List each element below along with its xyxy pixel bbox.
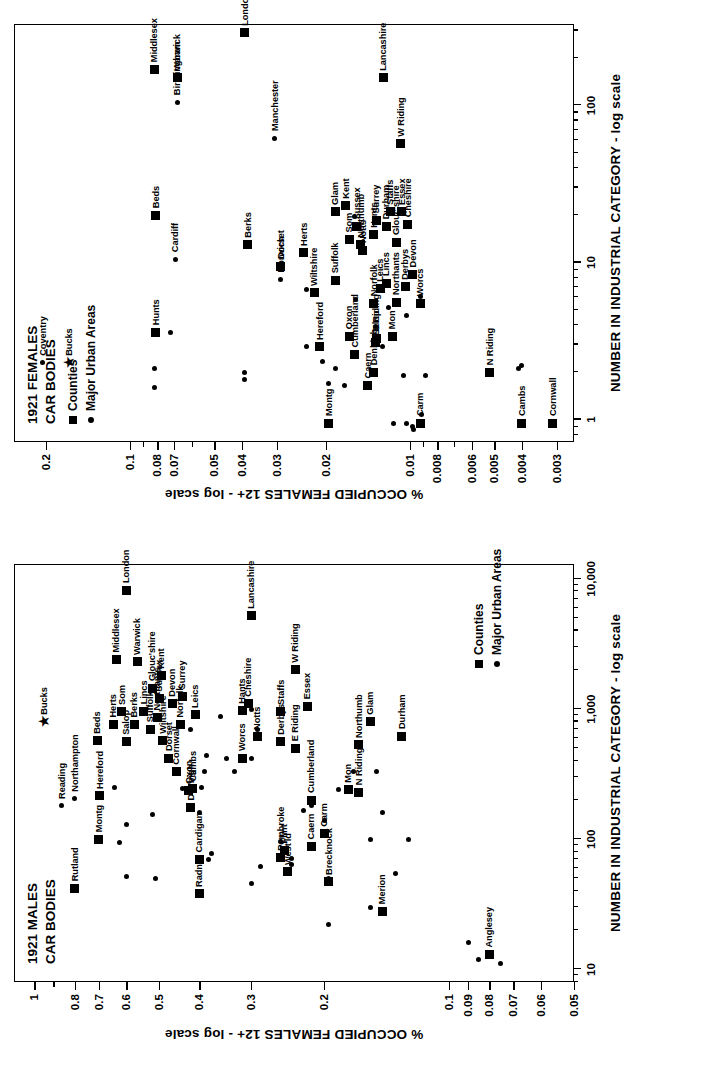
data-point-square	[112, 655, 121, 664]
data-point-label: Beds	[92, 711, 102, 733]
data-point-square	[153, 713, 162, 722]
data-point-label: Bucks	[39, 687, 49, 714]
data-point-label: Lincs	[381, 252, 391, 276]
axis-tick-x	[574, 167, 578, 168]
axis-tick-x	[574, 57, 578, 58]
data-point-dot	[175, 100, 180, 105]
data-point-label: Rutland	[70, 847, 80, 881]
data-point-dot	[168, 330, 173, 335]
data-point-square	[403, 220, 412, 229]
data-point-label: Staffs	[276, 680, 286, 705]
data-point-label: Cambs	[517, 386, 527, 417]
axis-tick-x	[574, 29, 578, 30]
data-point-dot	[418, 294, 423, 299]
data-point-square	[382, 279, 391, 288]
axis-tick-x	[574, 760, 578, 761]
data-point-label: Berks	[243, 212, 253, 237]
axis-tick-x	[574, 720, 578, 721]
data-point-dot	[476, 957, 481, 962]
data-point-square	[243, 240, 252, 249]
axis-tick-x	[574, 104, 581, 105]
legend-square-icon	[69, 416, 77, 424]
data-point-dot	[466, 940, 471, 945]
chart-females: 110100NUMBER IN INDUSTRIAL CATEGORY - lo…	[0, 0, 705, 540]
data-point-label: Cardiff	[170, 223, 180, 252]
axis-tick-x	[574, 214, 578, 215]
data-point-square	[291, 665, 300, 674]
data-point-label: Wiltshire	[309, 248, 319, 286]
axis-tick-x	[574, 261, 581, 262]
data-point-label: Glam	[330, 182, 340, 205]
data-point-square	[291, 744, 300, 753]
data-point-dot	[401, 373, 406, 378]
data-point-square	[150, 65, 159, 74]
y-tick-label: 0.8	[69, 994, 81, 1010]
data-point-label: Hants	[369, 203, 379, 228]
legend-label: Major Urban Areas	[488, 549, 506, 655]
data-point-square	[378, 907, 387, 916]
data-point-square	[195, 889, 204, 898]
data-point-square	[345, 235, 354, 244]
data-point-dot	[326, 381, 331, 386]
y-tick-label: 0.01	[404, 454, 416, 477]
y-tick-label: 0.07	[168, 454, 180, 477]
data-point-square	[369, 230, 378, 239]
data-point-label: London	[121, 550, 131, 583]
axis-tick-x	[574, 728, 578, 729]
data-point-square	[341, 201, 350, 210]
axis-tick-y-major	[251, 982, 252, 990]
data-point-dot	[419, 412, 424, 417]
axis-tick-x	[574, 139, 578, 140]
data-point-square	[95, 791, 104, 800]
legend-item: Major Urban Areas	[488, 549, 506, 668]
axis-tick-x	[574, 186, 578, 187]
axis-tick-x	[574, 890, 578, 891]
data-point-dot	[249, 881, 254, 886]
data-point-dot	[173, 257, 178, 262]
data-point-label: Som	[117, 685, 127, 705]
y-tick-label: 0.1	[124, 454, 136, 470]
data-point-dot	[117, 840, 122, 845]
data-point-label: N Riding	[485, 328, 495, 365]
data-point-square	[382, 222, 391, 231]
data-point-dot	[249, 756, 254, 761]
data-point-square	[548, 419, 557, 428]
axis-tick-y-major	[574, 982, 575, 990]
data-point-label: Kent	[156, 649, 166, 669]
axis-tick-y-major	[541, 982, 542, 990]
axis-tick-y-major	[157, 442, 158, 450]
data-point-label: Herts	[299, 223, 309, 246]
data-point-label: W Riding	[290, 623, 300, 662]
axis-tick-x	[574, 286, 578, 287]
axis-tick-x	[574, 309, 578, 310]
axis-tick-x	[574, 418, 581, 419]
data-point-label: Norfolk	[175, 686, 185, 718]
data-point-square	[130, 720, 139, 729]
axis-tick-x	[574, 426, 578, 427]
y-tick-label: 0.05	[208, 454, 220, 477]
legend-label: Major Urban Areas	[82, 305, 100, 411]
data-point-square	[363, 381, 372, 390]
data-point-square	[366, 717, 375, 726]
data-point-label: Notts	[358, 220, 368, 243]
x-tick-label: 10,000	[585, 561, 597, 597]
axis-tick-x	[574, 714, 578, 715]
data-point-square	[401, 282, 410, 291]
legend-dot-icon	[88, 417, 94, 423]
data-point-square	[253, 732, 262, 741]
data-point-label: Manchester	[270, 80, 280, 131]
data-point-label: Cornwall	[171, 726, 181, 764]
data-point-dot	[204, 753, 209, 758]
data-point-square	[191, 710, 200, 719]
y-tick-label: 0.006	[466, 454, 478, 483]
y-tick-label: 0.08	[483, 994, 495, 1017]
axis-tick-x	[574, 629, 578, 630]
axis-tick-y	[454, 442, 455, 447]
axis-tick-x	[574, 111, 578, 112]
axis-tick-y	[53, 982, 54, 987]
x-tick-label: 1	[585, 416, 597, 423]
axis-tick-x	[574, 799, 578, 800]
axis-tick-x	[574, 578, 581, 579]
data-point-label: Durham	[397, 695, 407, 730]
data-point-dot	[368, 837, 373, 842]
